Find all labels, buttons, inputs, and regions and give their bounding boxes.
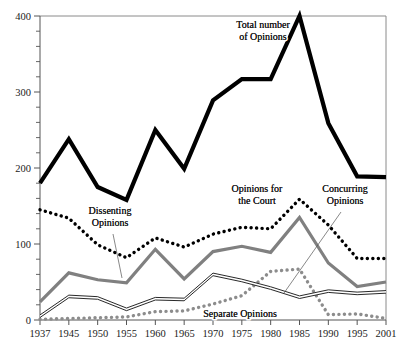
y-tick-label: 100 [15,239,31,250]
annotation-text: Dissenting [89,205,132,216]
x-tick-label: 1960 [145,328,166,339]
annotation-text: of Opinions [239,31,287,42]
annotation-total: Total numberTotal numberof Opinionsof Op… [236,19,290,42]
x-tick-label: 1985 [289,328,310,339]
annotation-text: Opinions [92,217,129,228]
x-tick-label: 1975 [231,328,252,339]
x-tick-label: 1980 [260,328,281,339]
x-tick-label: 1965 [174,328,195,339]
annotation-text: Total number [236,19,290,30]
x-tick-label: 1990 [318,328,339,339]
annotation-text: Opinions for [232,183,284,194]
series-total-number-of-opinions [40,16,386,200]
annotation-text: Separate Opinions [203,308,277,319]
y-tick-label: 400 [15,11,31,22]
annotation-separate: Separate OpinionsSeparate Opinions [203,308,277,319]
annotation-text: Concurring [322,183,368,194]
y-tick-label: 0 [26,315,31,326]
x-tick-label: 1945 [58,328,79,339]
y-tick-label: 200 [15,163,31,174]
annotation-court: Opinions forOpinions forthe Courtthe Cou… [232,183,284,206]
x-tick-label: 1937 [30,328,51,339]
annotation-dissenting: DissentingDissentingOpinionsOpinions [89,205,132,228]
series-opinions-for-the-court [40,217,386,301]
annotation-concurring: ConcurringConcurringOpinionsOpinions [322,183,368,206]
x-tick-label: 1995 [347,328,368,339]
x-tick-label: 1950 [87,328,108,339]
x-tick-label: 1970 [203,328,224,339]
x-tick-label: 1955 [116,328,137,339]
annotation-text: the Court [238,195,276,206]
chart-canvas: 0100200300400193719451950195519601965197… [0,0,401,347]
x-tick-label: 2001 [376,328,397,339]
opinions-line-chart: 0100200300400193719451950195519601965197… [0,0,401,347]
y-tick-label: 300 [15,87,31,98]
annotation-text: Opinions [327,195,364,206]
